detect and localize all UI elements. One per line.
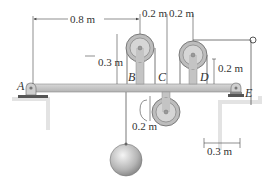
pulley-b-icon: [126, 34, 154, 62]
point-a-label: A: [16, 79, 25, 93]
dim-c-to-d: 0.2 m: [169, 7, 195, 19]
beam-ae: [27, 84, 240, 92]
dim-lower-pulley-depth: 0.2 m: [132, 120, 158, 132]
dim-a-to-b: 0.8 m: [70, 13, 96, 25]
dim-b-to-c: 0.2 m: [142, 7, 168, 19]
dim-e-to-cable: 0.3 m: [207, 145, 233, 157]
frame-diagram: 0.8 m 0.2 m 0.2 m 0.3 m 0.2 m 0.2 m 0.3 …: [0, 0, 267, 183]
pulley-d-icon: [179, 41, 207, 69]
pin-support-a-icon: [26, 83, 36, 95]
dim-pulley-b-height: 0.3 m: [98, 56, 124, 68]
point-e-label: E: [244, 86, 253, 100]
dim-pulley-d-height: 0.2 m: [218, 62, 244, 74]
ground-left: [12, 95, 50, 130]
point-b-label: B: [128, 70, 136, 84]
point-c-label: C: [158, 70, 167, 84]
point-d-label: D: [199, 70, 209, 84]
weight-sphere-icon: [110, 144, 142, 176]
